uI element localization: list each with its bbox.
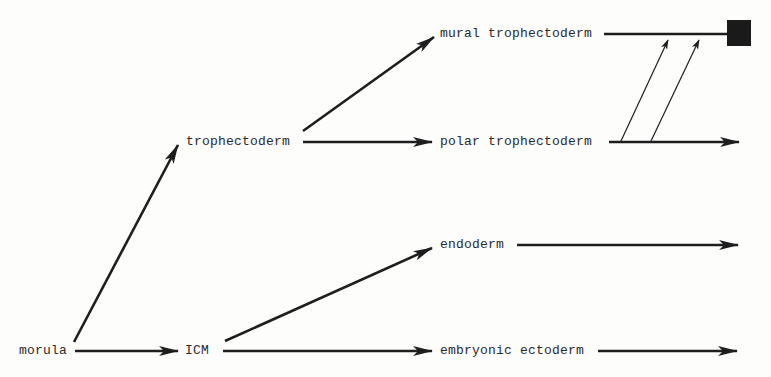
node-polar-trophectoderm: polar trophectoderm [440, 134, 592, 150]
node-mural-trophectoderm: mural trophectoderm [440, 26, 592, 42]
thin-arrow-polar-to-mural-2 [651, 40, 699, 141]
terminal-block [727, 20, 751, 46]
node-endoderm: endoderm [440, 237, 504, 253]
node-trophectoderm: trophectoderm [186, 134, 290, 150]
diagram-arrows [0, 0, 771, 377]
node-icm: ICM [185, 343, 209, 359]
node-morula: morula [19, 343, 67, 359]
lineage-diagram: morula ICM trophectoderm mural trophecto… [0, 0, 771, 377]
node-embryonic-ectoderm: embryonic ectoderm [440, 343, 584, 359]
arrow-icm-to-endoderm [225, 248, 432, 341]
arrow-morula-to-trophectoderm [74, 145, 178, 342]
arrow-trophectoderm-to-mural [303, 37, 434, 131]
thin-arrow-polar-to-mural-1 [621, 40, 668, 141]
